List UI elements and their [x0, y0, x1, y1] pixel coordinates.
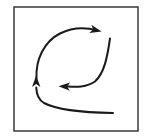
figure-root: A rectangular frame enclosing a lens-sha… [0, 0, 150, 140]
circulation-diagram [0, 0, 150, 140]
figure-background [0, 0, 150, 140]
